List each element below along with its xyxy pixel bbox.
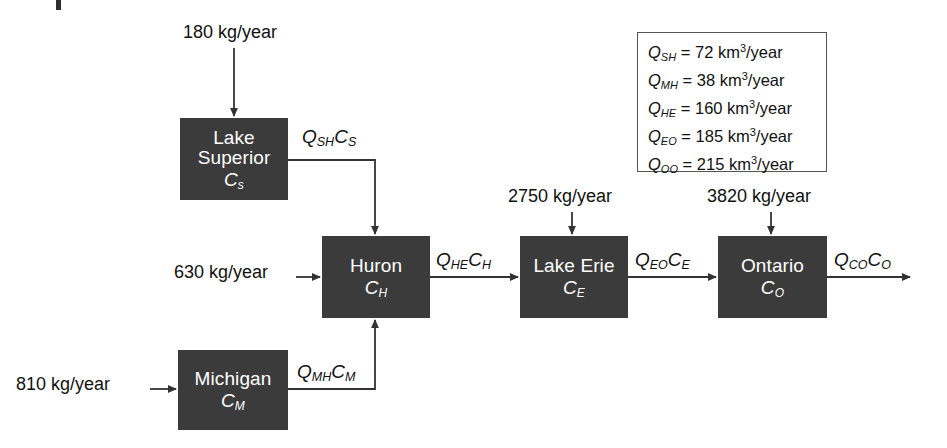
lake-name-superior-line2: Superior	[198, 148, 271, 169]
lake-concentration-huron: CH	[365, 278, 388, 299]
lake-box-michigan: Michigan CM	[178, 350, 288, 430]
lake-concentration-ontario: CO	[761, 278, 784, 299]
flux-label-erie-ontario: QEOCE	[635, 249, 690, 271]
lake-concentration-michigan: CM	[221, 391, 245, 412]
lake-box-ontario: Ontario CO	[718, 236, 827, 318]
legend-row-he: QHE = 160 km3/year	[648, 95, 826, 123]
lake-name-huron: Huron	[350, 256, 402, 277]
flux-label-huron-erie: QHECH	[436, 249, 491, 271]
flux-label-superior-huron: QSHCS	[302, 126, 356, 148]
lake-box-erie: Lake Erie CE	[520, 236, 628, 318]
lake-name-erie: Lake Erie	[533, 256, 614, 277]
lake-concentration-superior: Cs	[224, 170, 244, 191]
legend-row-eo: QEO = 185 km3/year	[648, 123, 826, 151]
load-label-huron: 630 kg/year	[174, 262, 268, 283]
lake-box-superior: Lake Superior Cs	[180, 118, 288, 200]
load-label-superior: 180 kg/year	[183, 22, 277, 43]
flux-label-ontario-outflow: QCOCO	[834, 249, 891, 271]
great-lakes-flow-diagram: 180 kg/year 630 kg/year 810 kg/year 2750…	[0, 0, 947, 448]
load-label-michigan: 810 kg/year	[16, 374, 110, 395]
arrow-superior-to-huron	[288, 160, 375, 234]
legend-row-oo: QOO = 215 km3/year	[648, 151, 826, 179]
lake-concentration-erie: CE	[563, 278, 585, 299]
flux-label-michigan-huron: QMHCM	[297, 361, 355, 383]
lake-box-huron: Huron CH	[322, 236, 430, 318]
legend-row-mh: QMH = 38 km3/year	[648, 67, 826, 95]
flow-rate-legend: QSH = 72 km3/year QMH = 38 km3/year QHE …	[637, 32, 827, 172]
load-label-ontario: 3820 kg/year	[707, 186, 811, 207]
lake-name-ontario: Ontario	[741, 256, 804, 277]
lake-name-michigan: Michigan	[195, 369, 272, 390]
load-label-erie: 2750 kg/year	[508, 186, 612, 207]
lake-name-superior-line1: Lake	[213, 128, 255, 149]
legend-row-sh: QSH = 72 km3/year	[648, 39, 826, 67]
